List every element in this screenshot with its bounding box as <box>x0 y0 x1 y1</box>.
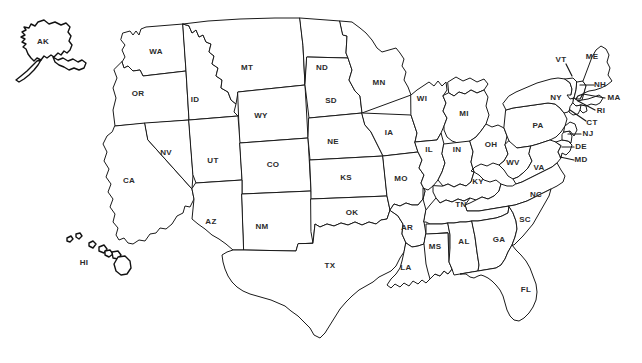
state-label-VT[interactable]: VT <box>556 56 567 64</box>
state-label-TX[interactable]: TX <box>325 262 336 270</box>
state-label-NM[interactable]: NM <box>255 223 268 231</box>
state-label-CT[interactable]: CT <box>586 119 597 127</box>
state-label-AL[interactable]: AL <box>458 238 469 246</box>
leader-line-VT <box>566 64 572 76</box>
state-shape-AZ[interactable] <box>192 180 244 250</box>
state-label-SD[interactable]: SD <box>325 97 337 105</box>
state-label-OK[interactable]: OK <box>346 209 359 217</box>
state-label-HI[interactable]: HI <box>80 259 89 267</box>
state-label-MI[interactable]: MI <box>459 110 469 118</box>
state-label-RI[interactable]: RI <box>597 107 606 115</box>
state-label-PA[interactable]: PA <box>532 122 543 130</box>
state-label-NV[interactable]: NV <box>160 149 172 157</box>
state-label-NH[interactable]: NH <box>594 81 606 89</box>
state-shape-WY[interactable] <box>238 85 308 143</box>
state-label-DE[interactable]: DE <box>575 143 587 151</box>
state-label-VA[interactable]: VA <box>533 164 544 172</box>
state-label-MT[interactable]: MT <box>241 64 253 72</box>
state-label-KY[interactable]: KY <box>472 178 484 186</box>
state-label-IN[interactable]: IN <box>453 146 462 154</box>
state-label-ND[interactable]: ND <box>316 64 328 72</box>
state-label-WI[interactable]: WI <box>417 95 427 103</box>
state-label-SC[interactable]: SC <box>519 216 531 224</box>
state-label-IL[interactable]: IL <box>425 146 433 154</box>
state-label-FL[interactable]: FL <box>521 286 531 294</box>
state-label-CO[interactable]: CO <box>267 161 280 169</box>
state-label-NE[interactable]: NE <box>327 138 339 146</box>
state-label-LA[interactable]: LA <box>400 264 411 272</box>
state-shape-MS[interactable] <box>424 223 452 279</box>
state-label-UT[interactable]: UT <box>207 157 218 165</box>
state-label-WV[interactable]: WV <box>506 159 520 167</box>
state-label-MO[interactable]: MO <box>394 175 408 183</box>
state-shape-AK[interactable] <box>16 20 86 82</box>
state-label-AK[interactable]: AK <box>37 38 49 46</box>
state-label-MD[interactable]: MD <box>574 156 587 164</box>
state-label-OR[interactable]: OR <box>132 90 145 98</box>
state-label-CA[interactable]: CA <box>123 177 135 185</box>
us-map-svg <box>0 0 642 363</box>
state-label-MA[interactable]: MA <box>607 94 620 102</box>
state-label-ME[interactable]: ME <box>586 53 599 61</box>
state-label-KS[interactable]: KS <box>340 174 352 182</box>
state-label-NY[interactable]: NY <box>550 94 562 102</box>
state-label-MN[interactable]: MN <box>372 79 385 87</box>
state-label-ID[interactable]: ID <box>191 96 200 104</box>
state-label-NJ[interactable]: NJ <box>583 130 594 138</box>
state-label-NC[interactable]: NC <box>530 191 542 199</box>
state-shape-NM[interactable] <box>242 191 313 251</box>
state-label-AZ[interactable]: AZ <box>205 218 216 226</box>
state-label-GA[interactable]: GA <box>493 236 506 244</box>
state-label-IA[interactable]: IA <box>385 129 394 137</box>
state-label-OH[interactable]: OH <box>485 141 498 149</box>
state-label-AR[interactable]: AR <box>401 224 413 232</box>
us-state-map: AKHIWAORCANVIDMTWYUTCOAZNMNDSDNEKSOKTXMN… <box>0 0 642 363</box>
state-label-TN[interactable]: TN <box>455 201 466 209</box>
state-label-MS[interactable]: MS <box>429 243 442 251</box>
leader-line-MD <box>560 157 574 160</box>
state-shape-UT[interactable] <box>189 116 242 183</box>
state-label-WA[interactable]: WA <box>149 48 163 56</box>
state-label-WY[interactable]: WY <box>254 112 268 120</box>
